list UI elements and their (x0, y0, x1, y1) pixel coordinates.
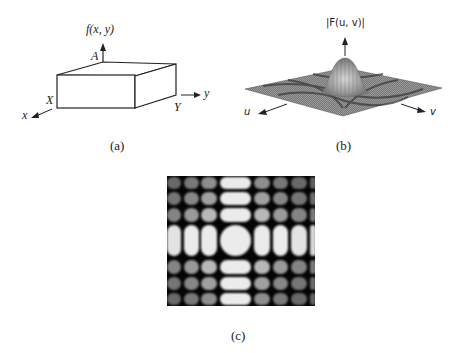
spectrum-lobe (254, 192, 270, 205)
spectrum-lobe (201, 277, 217, 290)
y-axis-label: y (204, 86, 209, 101)
y-extent-label: Y (174, 100, 181, 115)
spectrum-lobe (167, 208, 181, 222)
spectrum-lobe (291, 177, 307, 189)
spectrum-lobe (310, 260, 315, 274)
spectrum-lobe (184, 260, 199, 274)
spectrum-lobe (184, 208, 199, 222)
spectrum-lobe (220, 277, 251, 290)
panel-a: f(x, y) A X Y x y (a) (0, 0, 233, 170)
spectrum-lobe (273, 260, 288, 274)
spectrum-lobe (184, 177, 199, 189)
panel-b: |F(u, v)| u v (b) (233, 0, 466, 170)
spectrum-lobe (310, 177, 315, 189)
spectrum-lobe (167, 293, 181, 305)
spectrum-lobe (201, 260, 217, 274)
spectrum-lobe (254, 177, 270, 189)
spectrum-lobe (184, 277, 199, 290)
spectrum-lobe (184, 293, 199, 305)
spectrum-lobe (201, 177, 217, 189)
spectrum-lobe (201, 293, 217, 305)
spectrum-lobe (201, 192, 217, 205)
height-label: A (91, 49, 98, 64)
spectrum-lobe (220, 293, 251, 305)
spectrum-lobe (254, 225, 270, 256)
spectrum-lobe (184, 225, 199, 256)
spectrum-lobe (201, 225, 217, 256)
spectrum-lobe (220, 260, 251, 274)
spectrum-lobe (220, 177, 251, 189)
spectrum-lobe (201, 208, 217, 222)
spectrum-lobe (167, 260, 181, 274)
caption-b: (b) (336, 138, 351, 154)
spectrum-lobe (310, 293, 315, 305)
spectrum-lobe (310, 192, 315, 205)
caption-a: (a) (110, 138, 124, 154)
spectrum-lobe (220, 208, 251, 222)
u-axis-label: u (244, 106, 250, 117)
spectrum-lobe (291, 225, 307, 256)
spectrum-lobe (291, 192, 307, 205)
spectrum-lobe (291, 208, 307, 222)
spectrum-lobe (220, 192, 251, 205)
spectrum-lobe (273, 277, 288, 290)
spectrum-lobe (291, 277, 307, 290)
function-label: f(x, y) (86, 22, 114, 37)
spectrum-lobe (220, 225, 251, 256)
spectrum-lobe (254, 293, 270, 305)
spectrum-lobe (291, 260, 307, 274)
spectrum-lobe (310, 277, 315, 290)
x-axis-label: x (22, 108, 27, 123)
x-extent-label: X (46, 93, 53, 108)
spectrum-lobe (167, 277, 181, 290)
spectrum-lobe (167, 225, 181, 256)
spectrum-intensity-image (167, 176, 315, 306)
spectrum-lobe (273, 177, 288, 189)
caption-c: (c) (231, 328, 245, 344)
spectrum-lobe (273, 293, 288, 305)
spectrum-lobe (184, 192, 199, 205)
magnitude-label: |F(u, v)| (326, 17, 365, 28)
spectrum-lobe (273, 192, 288, 205)
spectrum-lobe (167, 192, 181, 205)
spectrum-lobe (273, 225, 288, 256)
spectrum-lobe (310, 225, 315, 256)
spectrum-lobe (291, 293, 307, 305)
spectrum-lobe (167, 177, 181, 189)
spectrum-lobe (310, 208, 315, 222)
spectrum-lobe (254, 260, 270, 274)
v-axis-label: v (430, 106, 436, 117)
spectrum-lobe (254, 277, 270, 290)
spectrum-lobe (254, 208, 270, 222)
spectrum-lobe (273, 208, 288, 222)
